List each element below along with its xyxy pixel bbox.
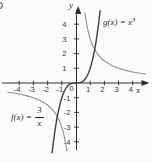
y-tick-label: -3 bbox=[64, 123, 71, 132]
x-tick-label: 2 bbox=[100, 85, 104, 94]
f-fraction-numerator: 3 bbox=[36, 106, 43, 115]
y-tick-label: 2 bbox=[62, 49, 66, 58]
x-tick-label: 4 bbox=[129, 85, 133, 94]
y-tick-label: 1 bbox=[62, 64, 66, 73]
f-fraction-denominator: x bbox=[36, 119, 42, 128]
y-tick-label: -1 bbox=[64, 94, 71, 103]
x-tick-label: -1 bbox=[56, 85, 63, 94]
y-axis-label: y bbox=[69, 1, 73, 10]
x-axis-arrow bbox=[142, 80, 150, 86]
g-function-equation-label: g(x) = x3 bbox=[103, 17, 135, 27]
y-tick-label: 3 bbox=[62, 35, 66, 44]
x-axis-label: x bbox=[136, 86, 140, 95]
f-equation-prefix: f(x) = bbox=[11, 113, 32, 122]
y-tick-label: -2 bbox=[64, 108, 71, 117]
x-tick-label: 3 bbox=[114, 85, 118, 94]
g-equation-exponent: 3 bbox=[132, 16, 135, 23]
x-tick-label: 1 bbox=[86, 85, 90, 94]
f-equation-fraction: 3 x bbox=[35, 106, 44, 128]
g-equation-prefix: g(x) = x bbox=[103, 17, 132, 27]
cubic-and-reciprocal-function-graph: -4-3-2-112344321-1-2-3-40 y x g(x) = x3 … bbox=[0, 0, 152, 162]
x-tick-label: -4 bbox=[14, 85, 21, 94]
f-function-equation-label: f(x) = 3 x bbox=[11, 106, 44, 128]
x-tick-label: -2 bbox=[42, 85, 49, 94]
x-tick-label: -3 bbox=[28, 85, 35, 94]
y-tick-label: 4 bbox=[62, 20, 66, 29]
